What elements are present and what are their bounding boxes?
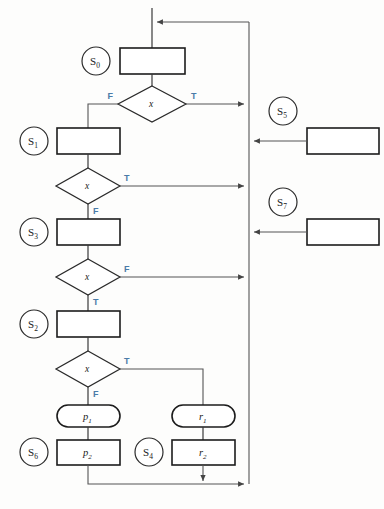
- edge-p2-to-bus: [88, 465, 244, 484]
- flowchart-canvas: S0 x F T S1 x T F S3: [0, 0, 384, 509]
- decision-label-d2: x: [84, 181, 90, 191]
- process-box-s0: [120, 48, 185, 74]
- branch-label-d1-false: F: [108, 91, 114, 101]
- flowchart-svg: S0 x F T S1 x T F S3: [0, 0, 384, 509]
- process-box-s1: [57, 128, 120, 154]
- edge-d4-true-to-r1: [120, 369, 203, 405]
- branch-label-d3-true: T: [93, 297, 99, 307]
- branch-label-d4-false: F: [93, 389, 99, 399]
- process-box-s7: [307, 219, 379, 245]
- decision-label-d4: x: [84, 364, 90, 374]
- decision-label-d1: x: [148, 99, 154, 109]
- branch-label-d1-true: T: [191, 91, 197, 101]
- branch-label-d2-true: T: [124, 173, 130, 183]
- branch-label-d4-true: T: [124, 356, 130, 366]
- process-box-s5: [307, 128, 379, 154]
- decision-label-d3: x: [84, 272, 90, 282]
- process-box-s3: [57, 219, 120, 245]
- branch-label-d3-false: F: [124, 264, 130, 274]
- branch-label-d2-false: F: [93, 206, 99, 216]
- edge-d1-false-to-s1: [88, 104, 118, 128]
- process-box-s2: [57, 311, 120, 337]
